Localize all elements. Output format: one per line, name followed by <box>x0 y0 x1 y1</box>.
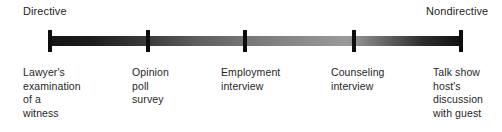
scale-point-label-4: Counseling interview <box>331 66 385 93</box>
scale-point-label-1: Lawyer's examination of a witness <box>23 66 81 120</box>
scale-point-label-5: Talk show host's discussion with guest <box>433 66 483 120</box>
axis-tick <box>48 30 52 52</box>
continuum-diagram: Directive Nondirective Lawyer's examinat… <box>0 0 502 132</box>
axis-tick <box>243 30 247 52</box>
axis-tick <box>352 30 356 52</box>
continuum-gradient-bar <box>48 36 463 46</box>
endpoint-label-right: Nondirective <box>426 5 488 18</box>
axis-tick <box>459 30 463 52</box>
continuum-axis <box>48 36 463 46</box>
scale-point-label-3: Employment interview <box>221 66 280 93</box>
endpoint-label-left: Directive <box>23 5 67 18</box>
axis-tick <box>146 30 150 52</box>
scale-point-label-2: Opinion poll survey <box>132 66 169 107</box>
